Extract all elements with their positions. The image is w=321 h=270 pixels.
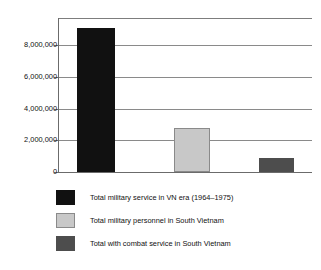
ytick-label-8000000: 8,000,000 — [1, 41, 57, 49]
ytick-label-4000000: 4,000,000 — [1, 105, 57, 113]
bar-total-military-personnel-south-vietnam — [174, 128, 210, 172]
legend-label-total-military-service-vn-era: Total military service in VN era (1964–1… — [90, 193, 233, 202]
legend-swatch-light-gray — [56, 213, 75, 228]
ytick-label-6000000: 6,000,000 — [1, 73, 57, 81]
bar-total-combat-service-south-vietnam — [259, 158, 294, 172]
x-axis-line — [58, 172, 312, 173]
bar-chart-figure: 8,000,000 6,000,000 4,000,000 2,000,000 … — [0, 0, 321, 270]
ytick-label-2000000: 2,000,000 — [1, 136, 57, 144]
ytick-label-0: 0 — [1, 168, 57, 176]
legend-swatch-dark-gray — [56, 236, 75, 251]
bars-layer — [58, 18, 312, 172]
legend-label-total-combat-service-south-vietnam: Total with combat service in South Vietn… — [90, 239, 231, 248]
legend-swatch-black — [56, 190, 75, 205]
bar-total-military-service-vn-era — [77, 28, 115, 172]
y-axis-line — [58, 18, 59, 173]
chart-legend: Total military service in VN era (1964–1… — [0, 188, 321, 270]
plot-area: 8,000,000 6,000,000 4,000,000 2,000,000 … — [0, 0, 321, 186]
legend-label-total-military-personnel-south-vietnam: Total military personnel in South Vietna… — [90, 216, 224, 225]
